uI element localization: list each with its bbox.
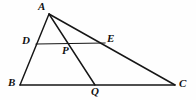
segment-de bbox=[36, 43, 105, 44]
point-label-a: A bbox=[38, 1, 45, 12]
point-label-c: C bbox=[179, 78, 186, 89]
point-label-q: Q bbox=[91, 86, 99, 97]
segment-aq bbox=[49, 14, 95, 85]
point-label-d: D bbox=[22, 35, 30, 46]
point-label-e: E bbox=[107, 33, 114, 44]
point-label-p: P bbox=[62, 45, 69, 56]
segment-ab bbox=[20, 14, 49, 85]
point-label-b: B bbox=[8, 77, 15, 88]
geometry-figure: A D B P E Q C bbox=[0, 0, 196, 100]
